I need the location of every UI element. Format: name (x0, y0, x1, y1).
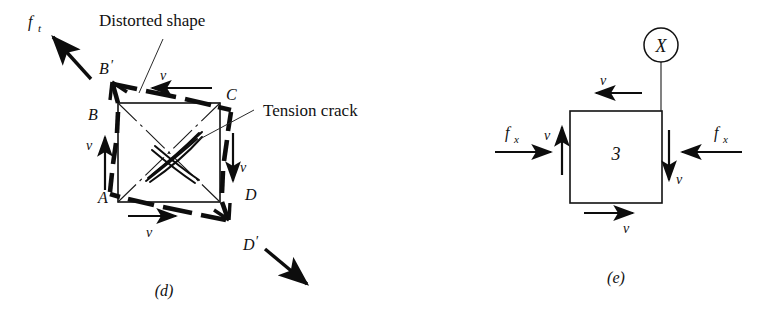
panel-e-caption: (e) (607, 269, 625, 287)
panel-d-caption: (d) (155, 282, 174, 300)
distorted-shape-leader-line (139, 39, 163, 93)
panel-d-group: f t Distorted shape Tension crack B ′ B … (28, 11, 358, 300)
velocity-label-right: v (676, 172, 683, 187)
fx-right-label-subscript: x (722, 133, 728, 145)
tension-crack-leader-line (198, 110, 254, 140)
tension-crack-label: Tension crack (263, 101, 358, 120)
panel-e-group: X 3 f x f x v v v v (e) (495, 28, 742, 287)
velocity-label-top: v (600, 73, 607, 88)
corner-label-b: B (88, 106, 98, 123)
ft-force-arrow (53, 37, 91, 79)
fx-right-label: f (714, 124, 721, 142)
corner-label-b-prime-mark: ′ (110, 58, 114, 73)
fx-left-label-subscript: x (513, 133, 519, 145)
figure-root: f t Distorted shape Tension crack B ′ B … (0, 0, 771, 324)
diagram-canvas: f t Distorted shape Tension crack B ′ B … (0, 0, 771, 324)
tension-crack-path (146, 132, 202, 183)
velocity-label-left: v (544, 128, 551, 143)
ft-label: f (28, 13, 35, 31)
velocity-label-left: v (86, 138, 93, 153)
corner-label-d-prime-mark: ′ (255, 234, 259, 249)
velocity-label-right: v (240, 160, 247, 175)
x-callout-label: X (655, 36, 668, 56)
element-number-label: 3 (611, 144, 621, 164)
ft-label-subscript: t (38, 22, 42, 34)
corner-label-d-prime: D (242, 236, 255, 253)
d-prime-displacement-arrow (265, 249, 307, 284)
corner-label-c: C (226, 86, 237, 103)
distorted-shape-label: Distorted shape (99, 11, 205, 30)
corner-label-b-prime: B (99, 60, 109, 77)
velocity-label-bottom: v (623, 221, 630, 236)
distorted-shape-outline (110, 84, 231, 220)
velocity-label-top: v (160, 68, 167, 83)
velocity-label-bottom: v (146, 225, 153, 240)
corner-label-a: A (97, 189, 108, 206)
corner-label-d: D (244, 186, 257, 203)
fx-left-label: f (505, 124, 512, 142)
